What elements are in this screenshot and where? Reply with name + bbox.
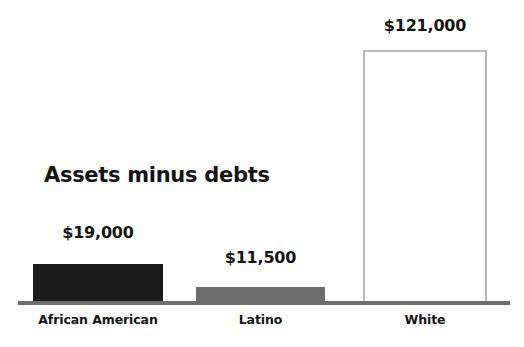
- category-label-latino: Latino: [196, 312, 325, 327]
- bar-african-american: [33, 264, 163, 303]
- plot-area: $19,000 $11,500 $121,000 Assets minus de…: [0, 0, 524, 303]
- category-axis-line: [18, 301, 510, 305]
- category-label-white: White: [363, 312, 487, 327]
- category-label-african-american: African American: [14, 312, 182, 327]
- value-label-white: $121,000: [363, 16, 487, 35]
- bar-white: [363, 50, 487, 303]
- value-label-latino: $11,500: [196, 248, 325, 267]
- bar-chart: $19,000 $11,500 $121,000 Assets minus de…: [0, 0, 524, 347]
- chart-title: Assets minus debts: [44, 163, 270, 187]
- value-label-african-american: $19,000: [33, 223, 163, 242]
